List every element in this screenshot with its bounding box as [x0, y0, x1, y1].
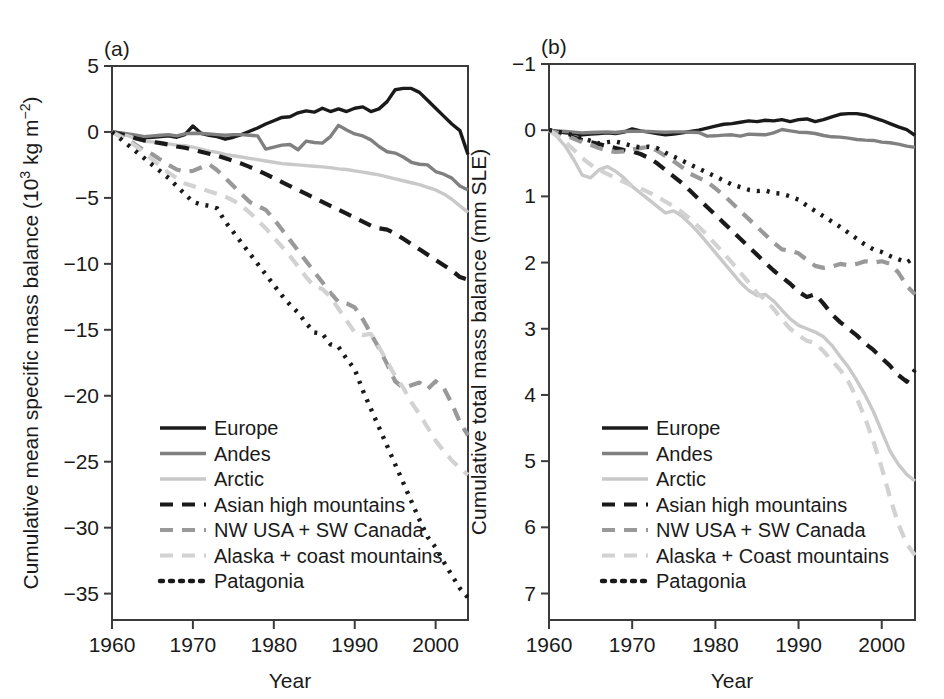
legend-label-europe: Europe [656, 417, 721, 439]
legend-label-arctic: Arctic [214, 468, 264, 490]
x-tick-label: 1990 [331, 633, 378, 656]
x-axis-title: Year [711, 669, 753, 692]
y-tick-label: −25 [63, 450, 99, 473]
panel-tag: (a) [104, 37, 130, 60]
legend-label-asian-high-mountains: Asian high mountains [656, 494, 847, 516]
y-tick-label: 3 [524, 317, 536, 340]
y-axis-title: Cumulative mean specific mass balance (1… [17, 97, 42, 590]
x-tick-label: 1980 [250, 633, 297, 656]
legend-label-alaska-coast-mountains: Alaska + coast mountains [214, 545, 442, 567]
y-tick-label: 6 [524, 515, 536, 538]
x-tick-label: 1960 [89, 633, 136, 656]
panel-b-svg: −10123456719601970198019902000Year(b)Cum… [464, 0, 944, 699]
legend-label-patagonia: Patagonia [656, 570, 747, 592]
y-tick-label: −30 [63, 516, 99, 539]
y-axis-title: Cumulative total mass balance (mm SLE) [467, 149, 490, 535]
y-tick-label: 0 [524, 118, 536, 141]
y-tick-label: −10 [63, 252, 99, 275]
x-tick-label: 1990 [775, 633, 822, 656]
legend-label-nw-usa-sw-canada: NW USA + SW Canada [214, 519, 424, 541]
legend-label-arctic: Arctic [656, 468, 706, 490]
legend-label-andes: Andes [656, 443, 713, 465]
y-tick-label: −35 [63, 582, 99, 605]
legend-label-nw-usa-sw-canada: NW USA + SW Canada [656, 519, 866, 541]
x-tick-label: 2000 [858, 633, 905, 656]
y-tick-label: 1 [524, 184, 536, 207]
x-tick-label: 1970 [609, 633, 656, 656]
chart-panel-b: −10123456719601970198019902000Year(b)Cum… [464, 0, 944, 699]
x-tick-label: 2000 [412, 633, 459, 656]
legend-label-europe: Europe [214, 417, 279, 439]
y-tick-label: −20 [63, 384, 99, 407]
legend-label-patagonia: Patagonia [214, 570, 305, 592]
y-tick-label: 5 [524, 449, 536, 472]
series-line-nw-usa-sw-canada [549, 130, 915, 294]
y-tick-label: −5 [75, 186, 99, 209]
series-line-patagonia [549, 130, 915, 262]
panel-tag: (b) [541, 35, 567, 58]
x-axis-title: Year [269, 669, 311, 692]
series-line-alaska-coast-mountains [549, 130, 915, 555]
y-tick-label: −15 [63, 318, 99, 341]
y-tick-label: 5 [87, 54, 99, 77]
x-tick-label: 1980 [692, 633, 739, 656]
y-tick-label: −1 [512, 52, 536, 75]
y-tick-label: 0 [87, 120, 99, 143]
legend-label-andes: Andes [214, 443, 271, 465]
panel-a-svg: 50−5−10−15−20−25−30−35196019701980199020… [0, 0, 480, 699]
y-tick-label: 4 [524, 383, 536, 406]
chart-panel-a: 50−5−10−15−20−25−30−35196019701980199020… [0, 0, 480, 699]
figure-container: 50−5−10−15−20−25−30−35196019701980199020… [0, 0, 944, 699]
x-tick-label: 1970 [170, 633, 217, 656]
y-tick-label: 7 [524, 582, 536, 605]
legend-label-alaska-coast-mountains: Alaska + Coast mountains [656, 545, 889, 567]
legend-label-asian-high-mountains: Asian high mountains [214, 494, 405, 516]
series-line-andes [112, 125, 468, 190]
x-tick-label: 1960 [526, 633, 573, 656]
y-tick-label: 2 [524, 251, 536, 274]
